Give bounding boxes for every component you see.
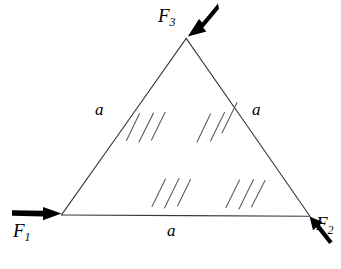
triangle-right-side: [186, 38, 310, 216]
hatch-stroke: [226, 180, 240, 208]
force-label-f1-symbol: F: [13, 220, 25, 241]
force-label-f3: F3: [158, 6, 176, 25]
force-label-f1-subscript: 1: [25, 230, 31, 244]
hatch-stroke: [127, 114, 140, 141]
hatch-stroke: [222, 103, 237, 134]
side-label-left: a: [95, 101, 104, 118]
hatch-stroke: [152, 179, 166, 207]
force-label-f2-symbol: F: [316, 213, 328, 234]
force-arrow-f1-shape: [12, 207, 62, 220]
hatch-stroke: [139, 113, 154, 142]
hatch-group-upper-left: [127, 113, 166, 143]
hatch-stroke: [252, 181, 266, 208]
side-label-bottom: a: [167, 222, 176, 239]
triangle-bottom-side: [62, 215, 310, 216]
force-label-f3-symbol: F: [158, 5, 170, 26]
force-arrow-f3: [188, 3, 219, 36]
force-label-f1: F1: [13, 221, 31, 240]
force-triangle-figure: F1 F2 F3 a a a: [0, 0, 341, 269]
force-arrow-f1: [12, 207, 62, 220]
hatch-group-lower-right: [226, 180, 265, 210]
hatch-group-upper-right: [197, 103, 237, 143]
side-label-right: a: [252, 101, 261, 118]
hatch-group-lower-left: [152, 179, 191, 209]
force-label-f3-subscript: 3: [170, 15, 176, 29]
force-label-f2: F2: [316, 214, 334, 233]
hatch-stroke: [239, 180, 254, 210]
hatch-stroke: [211, 113, 225, 142]
hatch-stroke: [152, 113, 166, 141]
force-arrow-f3-shape: [188, 3, 219, 36]
hatch-stroke: [165, 179, 180, 209]
force-label-f2-subscript: 2: [328, 223, 334, 237]
hatch-stroke: [197, 114, 211, 142]
triangle-left-side: [62, 38, 187, 214]
hatch-stroke: [178, 180, 191, 207]
